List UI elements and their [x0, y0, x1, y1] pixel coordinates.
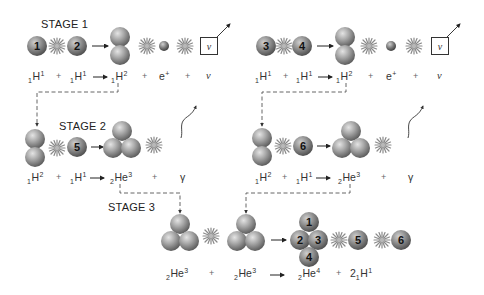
proton-label-6-final: 6	[391, 230, 411, 250]
reaction-arrow	[93, 73, 109, 81]
he3-left	[161, 231, 181, 251]
deuteron-bottom	[110, 45, 130, 65]
he3-right	[121, 138, 141, 158]
proton-label-5-final: 5	[348, 230, 368, 250]
plus-sign: +	[142, 71, 147, 81]
starburst-icon	[406, 38, 422, 54]
eq-term: 1H1	[296, 172, 312, 183]
plus-sign: +	[185, 71, 190, 81]
eq-term: e+	[386, 71, 396, 82]
reaction-arrow	[90, 174, 106, 182]
eq-term: ν	[206, 71, 211, 82]
starburst-icon	[275, 138, 291, 154]
eq-term: 2He3	[234, 268, 256, 279]
eq-term: 1H2	[336, 71, 352, 82]
neutrino-box: ν	[200, 37, 218, 55]
proton-label-1: 1	[27, 36, 47, 56]
eq-term: 2He3	[338, 172, 360, 183]
stage3	[161, 212, 411, 267]
stage-3-title: STAGE 3	[108, 201, 155, 213]
starburst-icon	[49, 140, 65, 156]
plus-sign: +	[413, 71, 418, 81]
eq-term: 1H2	[27, 172, 43, 183]
plus-sign: +	[56, 71, 61, 81]
plus-sign: +	[283, 71, 288, 81]
reaction-arrow	[316, 174, 332, 182]
plus-sign: +	[282, 172, 287, 182]
starburst-icon	[49, 38, 65, 54]
eq-term: 1H2	[111, 71, 127, 82]
starburst-icon	[276, 38, 292, 54]
deuteron-bottom	[335, 45, 355, 65]
eq-term: ν	[437, 71, 442, 82]
reaction-arrow	[270, 271, 286, 279]
eq-term: 1H1	[28, 71, 44, 82]
proton-label-3: 3	[256, 36, 276, 56]
positron	[159, 41, 169, 51]
stage-2-title: STAGE 2	[59, 120, 106, 132]
proton-label-4: 4	[292, 36, 312, 56]
eq-term: 1H1	[70, 71, 86, 82]
eq-term: γ	[408, 172, 413, 183]
reaction-arrow	[318, 73, 334, 81]
eq-term: 2He3	[166, 268, 188, 279]
eq-term: 2He3	[110, 172, 132, 183]
proton-label-6: 6	[293, 136, 313, 156]
eq-term: 21H1	[350, 268, 372, 279]
plus-sign: +	[56, 172, 61, 182]
dashed-connector	[246, 184, 350, 213]
neutrino-escape-arrow	[447, 24, 460, 37]
starburst-icon	[375, 137, 391, 153]
he3-left	[332, 138, 352, 158]
deuteron-top	[25, 129, 45, 149]
he3-top	[341, 121, 361, 141]
neutrino-escape-arrow	[217, 24, 230, 37]
he3-right	[350, 138, 370, 158]
he4-label-4: 4	[299, 247, 319, 267]
he3-right	[179, 231, 199, 251]
plus-sign: +	[152, 172, 157, 182]
starburst-icon	[177, 38, 193, 54]
eq-term: e+	[159, 71, 169, 82]
plus-sign: +	[209, 268, 214, 278]
starburst-icon	[331, 232, 347, 248]
starburst-icon	[374, 232, 390, 248]
dashed-connector	[262, 83, 346, 126]
starburst-icon	[146, 137, 162, 153]
proton-label-2: 2	[67, 36, 87, 56]
eq-term: 1H1	[255, 71, 271, 82]
stage1-right	[256, 24, 460, 65]
proton-label-5: 5	[67, 137, 87, 157]
deuteron-bottom	[252, 146, 272, 166]
gamma-ray-wave	[408, 106, 423, 138]
eq-term: γ	[180, 172, 185, 183]
deuteron-bottom	[25, 147, 45, 167]
plus-sign: +	[368, 71, 373, 81]
he3-left	[227, 231, 247, 251]
stage-1-title: STAGE 1	[41, 18, 88, 30]
eq-term: 1H2	[255, 172, 271, 183]
he3-top	[236, 214, 256, 234]
deuteron-top	[335, 27, 355, 47]
starburst-icon	[361, 38, 377, 54]
deuteron-top	[252, 128, 272, 148]
he3-top	[112, 121, 132, 141]
eq-term: 1H1	[296, 71, 312, 82]
he3-top	[170, 214, 190, 234]
plus-sign: +	[336, 268, 341, 278]
gamma-ray-wave	[181, 106, 196, 138]
stage2-left	[25, 106, 196, 167]
starburst-icon	[203, 228, 219, 244]
neutrino-box: ν	[431, 37, 449, 55]
stage2-right	[252, 106, 423, 166]
eq-term: 1H1	[70, 172, 86, 183]
eq-term: 2He4	[298, 268, 320, 279]
plus-sign: +	[381, 172, 386, 182]
he3-left	[103, 138, 123, 158]
he3-right	[245, 231, 265, 251]
deuteron-top	[110, 27, 130, 47]
starburst-icon	[139, 38, 155, 54]
positron	[386, 41, 396, 51]
he4-label-1: 1	[299, 212, 319, 232]
